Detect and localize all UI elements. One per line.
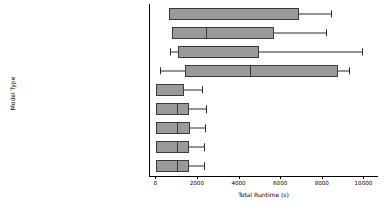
x-tick-label: 6000 (273, 181, 287, 187)
whisker-high-line (299, 13, 331, 14)
whisker-high-line (189, 166, 205, 167)
boxplot-item (0, 61, 386, 81)
chart-screenshot: LORA:microsoft/codebert-baseLORA:bert-ba… (0, 0, 386, 213)
whisker-low-line (170, 51, 178, 52)
box-rect (156, 122, 190, 134)
x-tick-label: 0 (153, 181, 157, 187)
whisker-low-cap (170, 48, 171, 55)
whisker-high-line (259, 51, 362, 52)
x-tick-mark (239, 176, 240, 179)
x-tick-mark (363, 176, 364, 179)
median-line (177, 141, 178, 153)
whisker-high-line (189, 109, 207, 110)
x-tick-label: 10000 (355, 181, 373, 187)
boxplot-item (0, 23, 386, 43)
box-rect (169, 8, 299, 20)
whisker-high-cap (331, 10, 332, 17)
whisker-high-line (184, 90, 202, 91)
x-tick-mark (197, 176, 198, 179)
box-rect (172, 27, 274, 39)
box-rect (156, 141, 188, 153)
whisker-high-cap (349, 67, 350, 74)
whisker-high-cap (362, 48, 363, 55)
whisker-high-cap (204, 163, 205, 170)
boxplot-item (0, 4, 386, 24)
boxplot-item (0, 156, 386, 176)
whisker-high-line (274, 32, 326, 33)
boxplot-item (0, 137, 386, 157)
whisker-high-cap (204, 144, 205, 151)
whisker-low-line (160, 70, 185, 71)
x-tick-label: 8000 (315, 181, 329, 187)
median-line (177, 160, 178, 172)
median-line (177, 103, 178, 115)
box-rect (156, 103, 188, 115)
whisker-high-line (190, 128, 206, 129)
boxplot-item (0, 118, 386, 138)
boxplot-item (0, 80, 386, 100)
median-line (177, 122, 178, 134)
x-tick-label: 2000 (190, 181, 204, 187)
median-line (250, 65, 251, 77)
x-tick-mark (280, 176, 281, 179)
x-tick-mark (322, 176, 323, 179)
boxplot-item (0, 42, 386, 62)
whisker-high-cap (202, 86, 203, 93)
whisker-high-cap (205, 125, 206, 132)
x-axis-line (149, 176, 378, 177)
y-axis-line (149, 4, 150, 177)
x-tick-label: 4000 (231, 181, 245, 187)
whisker-high-cap (326, 29, 327, 36)
whisker-high-line (338, 70, 348, 71)
y-axis-title: Model Type (9, 64, 16, 124)
boxplot-item (0, 99, 386, 119)
whisker-high-line (189, 147, 205, 148)
box-rect (185, 65, 338, 77)
box-rect (156, 160, 188, 172)
x-tick-mark (155, 176, 156, 179)
whisker-low-cap (160, 67, 161, 74)
box-rect (156, 84, 184, 96)
box-rect (178, 46, 259, 58)
whisker-high-cap (206, 105, 207, 112)
median-line (206, 27, 207, 39)
x-axis-title: Total Runtime (s) (149, 191, 378, 198)
